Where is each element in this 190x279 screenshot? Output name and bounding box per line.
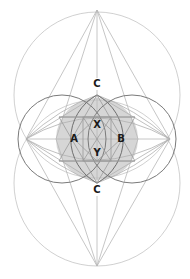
label-b: B xyxy=(117,133,125,144)
geometry-diagram: C C A B X Y xyxy=(0,0,190,279)
label-c-top: C xyxy=(93,78,100,89)
label-c-bottom: C xyxy=(93,184,100,195)
label-y: Y xyxy=(92,147,101,158)
label-x: X xyxy=(93,119,101,130)
label-a: A xyxy=(70,133,78,144)
